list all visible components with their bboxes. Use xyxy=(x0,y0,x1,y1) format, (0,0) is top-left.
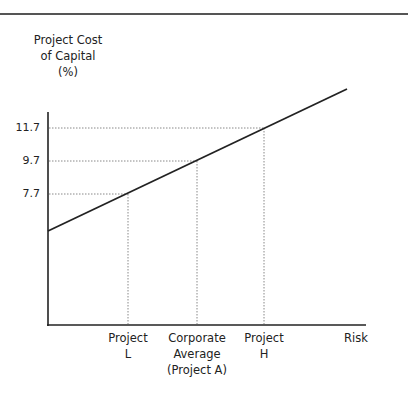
y-tick-11-7: 11.7 xyxy=(4,121,40,134)
y-tick-9-7: 9.7 xyxy=(4,154,40,167)
guide-lines xyxy=(49,128,264,324)
x-label-project-h: Project H xyxy=(234,330,294,362)
x-label-project-l: Project L xyxy=(98,330,158,362)
x-axis-label-risk: Risk xyxy=(336,330,376,346)
y-tick-7-7: 7.7 xyxy=(4,187,40,200)
x-label-corporate-average: Corporate Average (Project A) xyxy=(157,330,237,378)
